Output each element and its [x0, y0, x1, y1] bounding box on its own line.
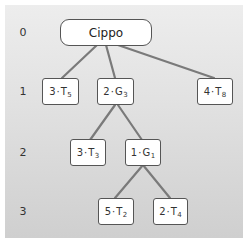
node-2-g3: 2·G3	[97, 78, 134, 105]
node-coefficient: 2	[103, 86, 109, 97]
edge-2g3-1g1	[118, 105, 142, 140]
node-separator: ·	[57, 86, 60, 97]
node-symbol: T	[61, 86, 67, 97]
node-separator: ·	[112, 206, 115, 217]
node-coefficient: 5	[105, 206, 111, 217]
node-subscript: 4	[177, 211, 181, 219]
edge-1g1-5t2	[115, 165, 143, 198]
root-node-cippo: Cippo	[60, 19, 152, 46]
node-separator: ·	[84, 147, 87, 158]
node-subscript: 1	[151, 152, 155, 160]
node-separator: ·	[211, 86, 214, 97]
node-coefficient: 2	[159, 206, 165, 217]
node-coefficient: 1	[131, 147, 137, 158]
edge-cippo-3t5	[62, 45, 97, 78]
node-3-t3: 3·T3	[70, 139, 106, 166]
node-symbol: T	[116, 206, 122, 217]
edge-cippo-2g3	[106, 45, 115, 78]
node-coefficient: 4	[204, 86, 210, 97]
level-label-3: 3	[18, 206, 28, 218]
root-node-label: Cippo	[89, 26, 123, 40]
edge-2g3-3t3	[90, 105, 115, 140]
node-subscript: 2	[123, 211, 127, 219]
node-3-t5: 3·T5	[42, 78, 79, 105]
level-label-2: 2	[18, 147, 28, 159]
node-symbol: G	[142, 147, 150, 158]
node-subscript: 3	[123, 91, 127, 99]
edge-1g1-2t4	[143, 165, 170, 198]
node-coefficient: 3	[49, 86, 55, 97]
node-5-t2: 5·T2	[98, 198, 134, 225]
node-separator: ·	[167, 206, 170, 217]
node-symbol: T	[215, 86, 221, 97]
node-1-g1: 1·G1	[125, 139, 161, 166]
level-label-1: 1	[18, 86, 28, 98]
node-symbol: T	[171, 206, 177, 217]
node-symbol: G	[115, 86, 123, 97]
node-separator: ·	[111, 86, 114, 97]
edge-cippo-4t8	[115, 44, 214, 78]
node-subscript: 8	[222, 91, 226, 99]
node-2-t4: 2·T4	[153, 198, 188, 225]
node-separator: ·	[138, 147, 141, 158]
node-subscript: 3	[95, 152, 99, 160]
node-symbol: T	[88, 147, 94, 158]
level-label-0: 0	[18, 27, 28, 39]
node-subscript: 5	[67, 91, 71, 99]
node-coefficient: 3	[77, 147, 83, 158]
node-4-t8: 4·T8	[197, 78, 233, 105]
